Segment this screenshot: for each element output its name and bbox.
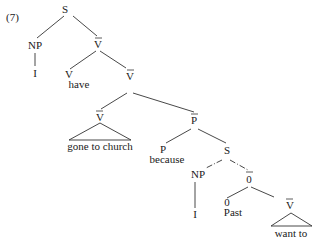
edge-vbar2-pbar bbox=[133, 93, 194, 112]
edge-s-obar bbox=[230, 160, 248, 170]
phrase-want-to: want to bbox=[275, 227, 308, 239]
node-pbar: P bbox=[191, 114, 198, 126]
node-vbar-1: V bbox=[94, 38, 102, 50]
node-vbar-2: V bbox=[126, 70, 134, 82]
edge-s-vbar1 bbox=[73, 16, 97, 36]
edge-s-np bbox=[37, 16, 64, 38]
edge-pbar-s bbox=[198, 129, 226, 143]
word-i-emb: I bbox=[193, 208, 197, 220]
word-past: Past bbox=[224, 206, 242, 218]
node-s-root: S bbox=[62, 3, 68, 15]
edge-vbar1-v bbox=[70, 51, 96, 69]
edge-vbar1-vbar2 bbox=[100, 51, 126, 68]
edge-pbar-p bbox=[166, 129, 191, 143]
triangle-gone-to-church bbox=[69, 123, 131, 140]
node-s-embedded: S bbox=[224, 144, 230, 156]
edge-obar-vbar4 bbox=[251, 187, 274, 197]
syntax-tree: (7) S NP I V V have V V gone to church bbox=[0, 0, 323, 246]
svg-text:V: V bbox=[96, 111, 104, 123]
svg-text:V: V bbox=[286, 199, 294, 211]
node-np-emb: NP bbox=[191, 168, 205, 180]
svg-text:V: V bbox=[126, 70, 134, 82]
svg-text:0: 0 bbox=[246, 173, 252, 185]
node-np-subj: NP bbox=[28, 39, 42, 51]
svg-text:V: V bbox=[94, 38, 102, 50]
node-vbar-3: V bbox=[96, 111, 104, 123]
tree-edges bbox=[35, 16, 312, 226]
word-because: because bbox=[150, 153, 185, 165]
triangle-want-to bbox=[271, 213, 312, 226]
edge-vbar2-vbar3 bbox=[101, 93, 127, 109]
edge-s-np-emb bbox=[206, 160, 222, 168]
example-number: (7) bbox=[6, 11, 19, 24]
phrase-gone-to-church: gone to church bbox=[67, 140, 133, 152]
word-have: have bbox=[69, 78, 90, 90]
word-i: I bbox=[33, 67, 37, 79]
node-vbar-4: V bbox=[286, 199, 294, 211]
svg-text:P: P bbox=[191, 114, 197, 126]
edge-obar-o bbox=[227, 187, 248, 198]
node-obar: 0 bbox=[246, 172, 253, 185]
